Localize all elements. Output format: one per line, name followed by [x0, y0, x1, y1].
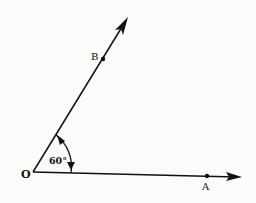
- point-a: [205, 174, 209, 178]
- angle-label: 60°: [49, 155, 67, 166]
- arrowhead-b-icon: [115, 17, 128, 35]
- ray-ob: [33, 22, 125, 172]
- point-b: [101, 57, 105, 61]
- angle-diagram: O A B 60°: [0, 0, 256, 203]
- point-label-b: B: [91, 51, 98, 62]
- point-label-a: A: [201, 181, 210, 192]
- arc-arrow-down-icon: [67, 162, 75, 170]
- vertex-label-o: O: [21, 168, 31, 181]
